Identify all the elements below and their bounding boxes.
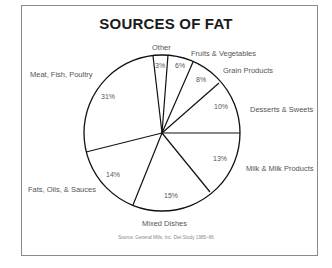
label-other: Other — [152, 43, 171, 52]
label-mixed-dishes: Mixed Dishes — [142, 219, 187, 228]
label-milk-products: Milk & Milk Products — [246, 164, 314, 173]
pct-fruits-vegetables: 6% — [175, 62, 185, 69]
pct-milk-products: 13% — [213, 155, 227, 162]
label-grain-products: Grain Products — [223, 66, 273, 75]
pct-meat-fish-poultry: 31% — [101, 93, 115, 100]
label-fats-oils-sauces: Fats, Oils, & Sauces — [28, 185, 96, 194]
pct-other: 3% — [155, 62, 165, 69]
pct-fats-oils-sauces: 14% — [106, 171, 120, 178]
label-meat-fish-poultry: Meat, Fish, Poultry — [30, 70, 93, 79]
pct-grain-products: 8% — [196, 76, 206, 83]
label-desserts-sweets: Desserts & Sweets — [250, 105, 313, 114]
label-fruits-vegetables: Fruits & Vegetables — [191, 49, 256, 58]
pct-mixed-dishes: 15% — [164, 192, 178, 199]
pct-desserts-sweets: 10% — [214, 103, 228, 110]
source-note: Source: General Mills, Inc. Diet Study 1… — [0, 235, 332, 240]
